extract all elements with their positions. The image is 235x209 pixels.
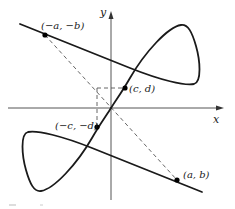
- point-labels: (−a, −b) (c, d) (−c, −d) (a, b): [41, 20, 210, 180]
- point-neg-a-neg-b: [42, 32, 47, 37]
- point-a-b: [174, 177, 179, 182]
- point-c-d: [122, 85, 127, 90]
- x-axis-label: x: [213, 113, 220, 126]
- label-neg-c-neg-d: (−c, −d): [55, 120, 98, 131]
- x-axis-arrow-icon: [216, 106, 224, 111]
- y-axis-label: y: [99, 6, 107, 19]
- symmetric-curve-diagram: x y (−a, −b) (c, d) (−c, −d): [0, 0, 235, 209]
- label-neg-a-neg-b: (−a, −b): [41, 20, 84, 31]
- label-c-d: (c, d): [129, 83, 155, 94]
- y-axis-arrow-icon: [109, 11, 114, 19]
- label-a-b: (a, b): [183, 169, 210, 180]
